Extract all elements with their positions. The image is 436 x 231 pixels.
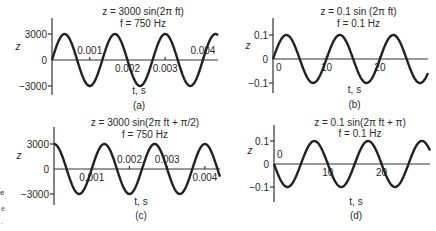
- chart-title: z = 3000 sin(2π ft + π/2): [91, 117, 199, 128]
- x-tick-label: 0.001: [79, 172, 104, 183]
- panel-label: (c): [135, 210, 147, 221]
- y-tick-label: −0.1: [248, 78, 268, 89]
- panel-label: (d): [350, 210, 362, 221]
- y-axis-label: z: [16, 150, 22, 161]
- y-tick-label: 0: [263, 159, 269, 170]
- chart-subtitle: f = 0.1 Hz: [338, 128, 381, 139]
- chart-subtitle: f = 750 Hz: [120, 18, 166, 29]
- x-axis-label: t, s: [134, 196, 147, 207]
- sine-figure: e e . z = 3000 sin(2π ft)f = 750 Hz30000…: [0, 0, 436, 231]
- panel-label: (a): [133, 100, 145, 111]
- caption-fragment: e: [1, 205, 5, 212]
- y-tick-label: 3000: [25, 29, 48, 40]
- y-tick-label: 0.1: [254, 30, 268, 41]
- y-tick-label: −3000: [19, 81, 48, 92]
- y-tick-label: 0.1: [255, 136, 269, 147]
- caption-fragment: e: [0, 188, 5, 197]
- x-axis-label: t, s: [348, 84, 361, 95]
- y-axis-label: z: [15, 41, 21, 52]
- y-tick-label: 0: [43, 164, 49, 175]
- y-tick-label: 3000: [27, 139, 50, 150]
- caption-fragment: .: [1, 218, 3, 225]
- y-tick-label: −0.1: [249, 182, 269, 193]
- x-tick-label: 0.001: [77, 45, 102, 56]
- x-axis-label: t, s: [349, 196, 362, 207]
- chart-title: z = 0.1 sin(2π ft + π): [314, 117, 406, 128]
- panel-label: (b): [348, 99, 360, 110]
- chart-title: z = 0.1 sin (2π ft): [320, 6, 396, 17]
- chart-subtitle: f = 0.1 Hz: [337, 18, 380, 29]
- x-tick-label: 0.003: [153, 63, 178, 74]
- x-tick-label: 0.004: [190, 45, 215, 56]
- y-tick-label: 0: [41, 55, 47, 66]
- x-tick-label: 0: [277, 149, 283, 160]
- x-tick-label: 0.004: [192, 172, 217, 183]
- x-tick-label: 0.002: [117, 154, 142, 165]
- chart-subtitle: f = 750 Hz: [122, 129, 168, 140]
- y-tick-label: −3000: [21, 189, 50, 200]
- y-axis-label: z: [247, 145, 253, 156]
- x-tick-label: 0.003: [155, 154, 180, 165]
- y-axis-label: z: [245, 40, 251, 51]
- chart-title: z = 3000 sin(2π ft): [102, 6, 184, 17]
- x-tick-label: 0: [276, 62, 282, 73]
- y-tick-label: 0: [262, 54, 268, 65]
